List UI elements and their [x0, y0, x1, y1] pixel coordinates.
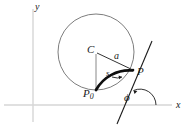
label-axis-x: x [176, 100, 180, 110]
s-pointer-arrow [112, 75, 122, 79]
label-point-P0-subscript: 0 [90, 92, 94, 101]
angle-phi-arc [134, 89, 157, 105]
label-point-P0-base: P [83, 87, 90, 99]
label-arc-length-s: s [106, 69, 110, 78]
label-point-P0: P0 [83, 88, 94, 101]
label-axis-y: y [35, 2, 39, 12]
label-radius-a: a [114, 51, 119, 61]
label-center-C: C [87, 44, 94, 55]
geometry-figure: C a s P P0 ϕ x y [0, 0, 195, 128]
figure-canvas [0, 0, 195, 128]
label-angle-phi: ϕ [124, 92, 130, 103]
point-P-marker [132, 69, 135, 72]
label-point-P: P [137, 66, 144, 77]
point-P0-marker [95, 89, 97, 91]
tangent-line [117, 41, 152, 124]
axes-group [4, 9, 172, 122]
